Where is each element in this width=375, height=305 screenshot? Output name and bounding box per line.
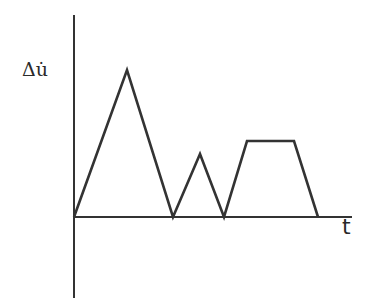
waveform-line [74,70,318,217]
y-axis-label: Δu̇ [22,58,48,80]
waveform-diagram [0,0,375,305]
x-axis-label: t [342,214,351,239]
